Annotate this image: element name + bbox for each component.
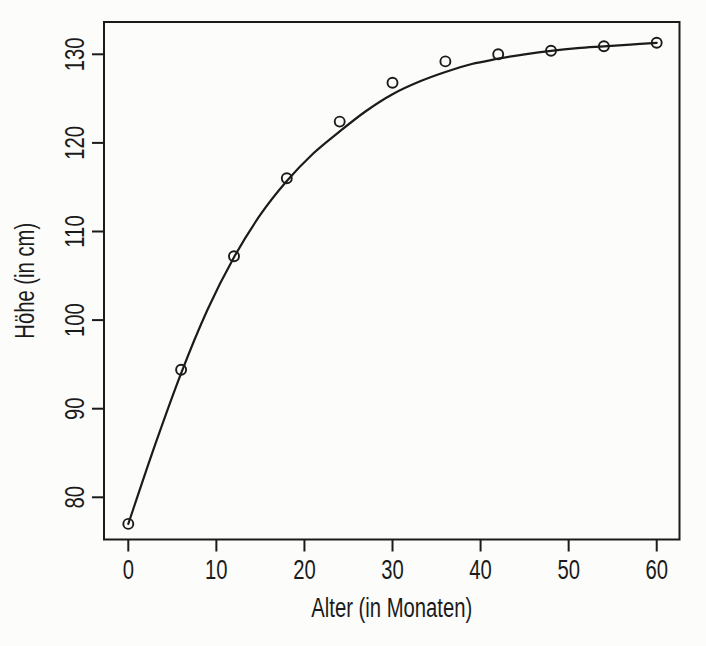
data-point-marker: [440, 56, 450, 66]
x-axis-tick-label: 50: [557, 554, 580, 585]
scatter-plot-canvas: 01020304050608090100110120130Alter (in M…: [0, 0, 706, 646]
plot-box: [104, 22, 680, 540]
x-axis-tick-label: 30: [381, 554, 404, 585]
x-axis-tick-label: 20: [293, 554, 316, 585]
fitted-growth-curve: [128, 43, 656, 524]
data-point-marker: [388, 78, 398, 88]
x-axis-tick-label: 40: [469, 554, 492, 585]
x-axis-label: Alter (in Monaten): [311, 592, 472, 623]
y-axis-tick-label: 80: [59, 486, 90, 509]
y-axis-tick-label: 100: [59, 303, 90, 337]
y-axis-label: Höhe (in cm): [9, 223, 40, 339]
x-axis-tick-label: 10: [205, 554, 228, 585]
x-axis-tick-label: 60: [645, 554, 668, 585]
growth-curve-figure: 01020304050608090100110120130Alter (in M…: [0, 0, 706, 646]
y-axis-tick-label: 90: [59, 397, 90, 420]
y-axis-tick-label: 110: [59, 215, 90, 247]
data-point-marker: [335, 117, 345, 127]
y-axis-tick-label: 120: [59, 126, 90, 160]
x-axis-tick-label: 0: [123, 554, 134, 585]
y-axis-tick-label: 130: [59, 37, 90, 71]
